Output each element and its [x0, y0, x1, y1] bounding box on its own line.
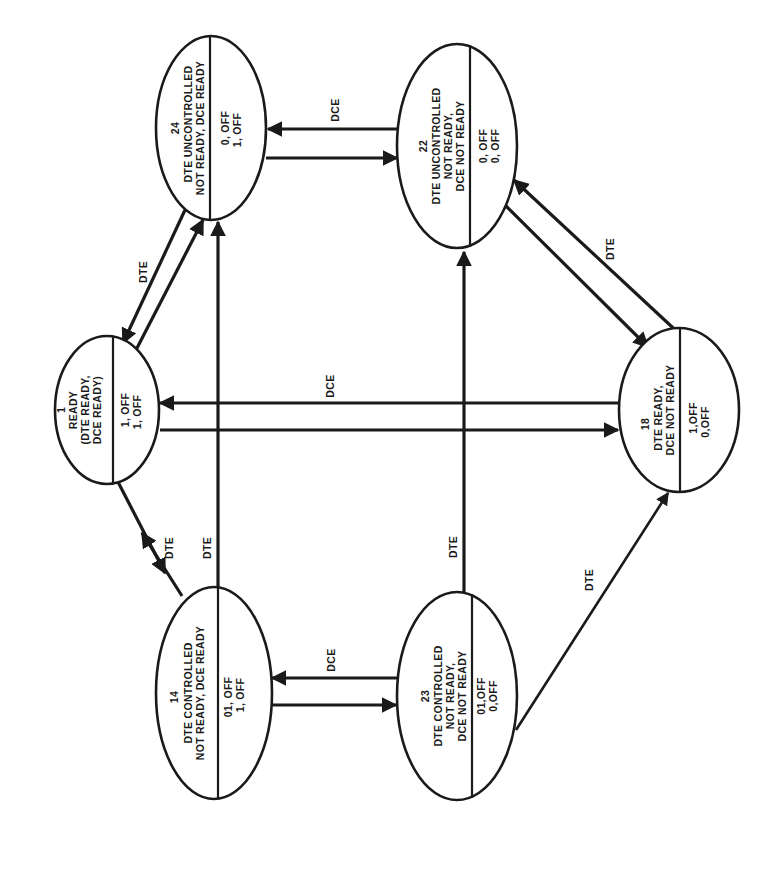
state-transition-diagram: DTE DCE DTE DCE DTE DTE DCE DTE DTE 1 RE…: [0, 0, 772, 874]
state-number: 24: [169, 122, 181, 134]
state-title-line: READY: [67, 391, 79, 429]
state-title-line: NOT READY, DCE READY: [194, 61, 206, 195]
state-title-line: DCE NOT READY: [456, 651, 468, 742]
state-23: 23 DTE CONTROLLED NOT READY, DCE NOT REA…: [397, 592, 517, 800]
state-signal: 01, OFF: [222, 676, 234, 717]
state-title-line: NOT READY,: [442, 113, 454, 180]
state-signal: 1, OFF: [131, 394, 143, 429]
edge-22-to-18: [505, 205, 648, 347]
edge-label-23-14: DCE: [325, 648, 337, 671]
edge-label-1-24: DTE: [137, 261, 149, 283]
state-title-line: DTE CONTROLLED: [432, 645, 444, 746]
edge-label-22-24: DCE: [329, 98, 341, 121]
state-title-line: NOT READY, DCE READY: [194, 626, 206, 760]
state-14: 14 DTE CONTROLLED NOT READY, DCE READY 0…: [156, 587, 272, 799]
edge-label-18-22: DTE: [604, 238, 616, 260]
state-number: 18: [639, 418, 651, 430]
state-signal: 1, OFF: [119, 392, 131, 427]
edge-23-to-18: [516, 493, 668, 730]
edge-label-23-22: DTE: [447, 536, 459, 558]
state-signal: 0, OFF: [219, 110, 231, 145]
state-number: 1: [55, 407, 67, 413]
state-signal: 0, OFF: [477, 128, 489, 163]
state-24: 24 DTE UNCONTROLLED NOT READY, DCE READY…: [156, 36, 266, 220]
state-title-line: DTE UNCONTROLLED: [182, 65, 194, 182]
state-title-line: DCE NOT READY: [664, 365, 676, 456]
state-title-line: DTE READY,: [652, 385, 664, 450]
edge-label-14-24: DTE: [201, 537, 213, 559]
state-signal: 01,OFF: [475, 677, 487, 715]
edge-14-to-1: [142, 533, 182, 596]
state-number: 14: [168, 691, 180, 703]
state-signal: 0,OFF: [699, 406, 711, 438]
state-18: 18 DTE READY, DCE NOT READY 1,OFF 0,OFF: [619, 328, 739, 492]
edge-label-14-1: DTE: [163, 537, 175, 559]
state-title-line: DCE NOT READY: [454, 101, 466, 192]
state-22: 22 DTE UNCONTROLLED NOT READY, DCE NOT R…: [397, 44, 517, 248]
state-signal: 1, OFF: [234, 677, 246, 712]
edge-label-18-1: DCE: [324, 374, 336, 397]
state-signal: 0,OFF: [487, 680, 499, 712]
state-signal: 1, OFF: [231, 112, 243, 147]
edge-label-23-18: DTE: [583, 569, 595, 591]
edge-24-to-1: [123, 210, 185, 343]
state-number: 22: [417, 140, 429, 152]
state-signal: 1,OFF: [687, 402, 699, 434]
state-number: 23: [419, 690, 431, 702]
state-title-line: DTE CONTROLLED: [182, 642, 194, 743]
state-title-line: (DTE READY,: [79, 375, 91, 444]
state-1: 1 READY (DTE READY, DCE READY) 1, OFF 1,…: [55, 336, 159, 484]
state-signal: 0, OFF: [489, 128, 501, 163]
state-title-line: DCE READY): [91, 376, 103, 444]
edge-18-to-22: [514, 180, 685, 339]
state-title-line: NOT READY,: [444, 663, 456, 730]
state-title-line: DTE UNCONTROLLED: [430, 87, 442, 204]
